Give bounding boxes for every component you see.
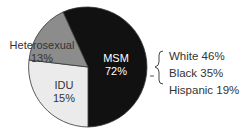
label-msm: MSM 72%	[96, 52, 136, 78]
label-msm-pct: 72%	[96, 65, 136, 78]
label-het-name: Heterosexual	[4, 39, 80, 52]
legend-item-black: Black 35%	[169, 65, 239, 82]
label-het-pct: 13%	[4, 52, 80, 65]
label-idu-name: IDU	[44, 79, 84, 92]
label-heterosexual: Heterosexual 13%	[4, 39, 80, 65]
legend-brace-icon	[155, 51, 163, 84]
label-idu-pct: 15%	[44, 92, 84, 105]
legend-item-hispanic: Hispanic 19%	[169, 82, 239, 99]
label-msm-name: MSM	[96, 52, 136, 65]
legend-item-white: White 46%	[169, 48, 239, 65]
msm-breakdown-legend: White 46% Black 35% Hispanic 19%	[169, 48, 239, 99]
label-idu: IDU 15%	[44, 79, 84, 105]
